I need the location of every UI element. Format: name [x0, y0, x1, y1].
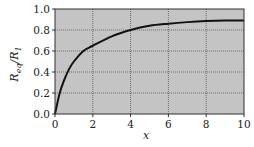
y-tick-label: 0.8 — [33, 24, 50, 36]
y-tick-label: 1.0 — [33, 3, 50, 15]
y-tick-label: 0.2 — [33, 87, 50, 99]
x-axis-ticks: 0246810 — [52, 114, 251, 130]
y-axis-label: Req/R1 — [8, 46, 23, 82]
x-tick-label: 10 — [237, 118, 250, 130]
y-axis-ticks: 0.00.20.40.60.81.0 — [33, 3, 55, 120]
x-tick-label: 6 — [165, 118, 172, 130]
y-tick-label: 0.6 — [33, 45, 50, 57]
y-tick-label: 0.0 — [33, 108, 50, 120]
x-tick-label: 4 — [127, 118, 134, 130]
y-tick-label: 0.4 — [33, 66, 50, 78]
x-axis-label: x — [143, 129, 150, 142]
x-tick-label: 8 — [203, 118, 210, 130]
x-tick-label: 0 — [52, 118, 59, 130]
x-tick-label: 2 — [89, 118, 96, 130]
chart: 0246810 0.00.20.40.60.81.0 x Req/R1 — [0, 0, 254, 147]
plot-area — [55, 9, 244, 114]
